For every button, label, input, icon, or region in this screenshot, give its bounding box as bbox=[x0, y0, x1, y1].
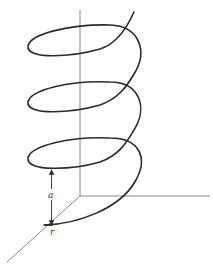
radius-label: r bbox=[50, 227, 55, 237]
x-axis bbox=[7, 196, 80, 262]
helix-curve bbox=[28, 12, 141, 225]
helix-diagram: a r bbox=[0, 0, 213, 273]
pitch-label: a bbox=[48, 190, 53, 200]
